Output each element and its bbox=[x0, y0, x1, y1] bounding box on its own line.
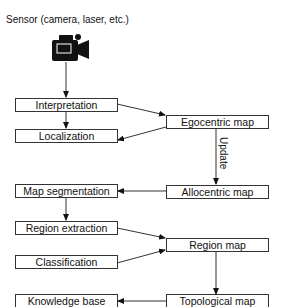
node-egocentric-map: Egocentric map bbox=[166, 115, 269, 129]
node-map-segmentation: Map segmentation bbox=[15, 184, 118, 198]
node-localization: Localization bbox=[15, 129, 118, 143]
edge-label-update: Update bbox=[218, 137, 229, 169]
node-topological-map: Topological map bbox=[166, 294, 269, 307]
node-allocentric-map: Allocentric map bbox=[166, 185, 269, 199]
node-region-map: Region map bbox=[166, 238, 269, 252]
diagram: Sensor (camera, laser, etc.) bbox=[0, 0, 283, 307]
node-interpretation: Interpretation bbox=[15, 98, 118, 112]
node-classification: Classification bbox=[15, 255, 118, 269]
node-knowledge-base: Knowledge base bbox=[15, 294, 118, 307]
node-region-extraction: Region extraction bbox=[15, 221, 118, 235]
